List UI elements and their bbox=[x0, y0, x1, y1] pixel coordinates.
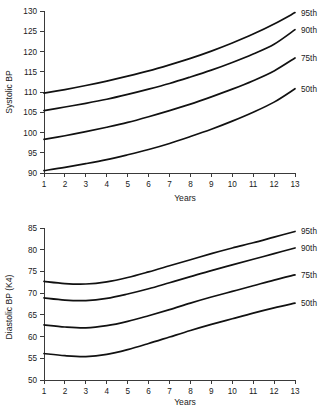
y-tick-label: 60 bbox=[28, 333, 38, 342]
x-tick-label: 11 bbox=[249, 180, 258, 189]
x-tick-label: 10 bbox=[228, 180, 238, 189]
series-curve-75th bbox=[44, 58, 295, 139]
systolic-bp-chart: 9095100105110115120125130 12345678910111… bbox=[0, 0, 331, 207]
diastolic-series-labels: 95th90th75th50th bbox=[301, 227, 317, 308]
systolic-x-tick-labels: 12345678910111213 bbox=[42, 180, 300, 189]
y-tick-label: 65 bbox=[28, 311, 38, 320]
series-label-50th: 50th bbox=[301, 85, 317, 94]
x-tick-label: 13 bbox=[290, 180, 300, 189]
x-tick-label: 8 bbox=[188, 387, 193, 396]
y-tick-label: 50 bbox=[28, 376, 38, 385]
y-tick-label: 95 bbox=[28, 149, 38, 158]
x-tick-label: 11 bbox=[249, 387, 258, 396]
x-tick-label: 4 bbox=[104, 387, 109, 396]
x-tick-label: 13 bbox=[290, 387, 300, 396]
x-tick-label: 12 bbox=[270, 387, 280, 396]
x-tick-label: 7 bbox=[167, 387, 172, 396]
y-tick-label: 70 bbox=[28, 289, 38, 298]
y-tick-label: 90 bbox=[28, 169, 38, 178]
series-label-90th: 90th bbox=[301, 26, 317, 35]
diastolic-bp-chart: 5055606570758085 12345678910111213 95th9… bbox=[0, 207, 331, 414]
diastolic-x-tick-marks bbox=[44, 380, 295, 384]
systolic-y-tick-labels: 9095100105110115120125130 bbox=[23, 7, 37, 178]
x-tick-label: 3 bbox=[84, 387, 89, 396]
series-curve-50th bbox=[44, 303, 295, 356]
systolic-x-tick-marks bbox=[44, 173, 295, 177]
x-tick-label: 8 bbox=[188, 180, 193, 189]
bp-percentile-figure: 9095100105110115120125130 12345678910111… bbox=[0, 0, 331, 414]
x-tick-label: 7 bbox=[167, 180, 172, 189]
systolic-series-labels: 95th90th75th50th bbox=[301, 9, 317, 94]
y-tick-label: 125 bbox=[23, 27, 37, 36]
systolic-chart-svg: 9095100105110115120125130 12345678910111… bbox=[0, 0, 331, 207]
systolic-y-tick-marks bbox=[40, 11, 44, 173]
y-tick-label: 85 bbox=[28, 224, 38, 233]
series-label-50th: 50th bbox=[301, 299, 317, 308]
series-label-90th: 90th bbox=[301, 244, 317, 253]
series-label-95th: 95th bbox=[301, 9, 317, 18]
diastolic-chart-svg: 5055606570758085 12345678910111213 95th9… bbox=[0, 207, 331, 414]
y-tick-label: 75 bbox=[28, 267, 38, 276]
y-tick-label: 130 bbox=[23, 7, 37, 16]
diastolic-curves bbox=[44, 231, 295, 356]
series-curve-50th bbox=[44, 89, 295, 171]
series-curve-90th bbox=[44, 248, 295, 301]
diastolic-y-tick-marks bbox=[40, 228, 44, 380]
x-tick-label: 4 bbox=[104, 180, 109, 189]
y-tick-label: 115 bbox=[24, 68, 37, 77]
x-tick-label: 5 bbox=[125, 387, 130, 396]
y-tick-label: 55 bbox=[28, 354, 38, 363]
y-tick-label: 100 bbox=[23, 129, 37, 138]
diastolic-y-tick-labels: 5055606570758085 bbox=[28, 224, 38, 385]
x-tick-label: 9 bbox=[209, 387, 214, 396]
systolic-y-axis-title: Systolic BP bbox=[4, 70, 14, 114]
x-tick-label: 1 bbox=[42, 180, 47, 189]
x-tick-label: 5 bbox=[125, 180, 130, 189]
diastolic-y-axis-title: Diastolic BP (K4) bbox=[4, 274, 14, 339]
y-tick-label: 120 bbox=[23, 48, 37, 57]
systolic-axes bbox=[40, 11, 295, 177]
y-tick-label: 105 bbox=[23, 108, 37, 117]
systolic-axis-lines bbox=[44, 11, 295, 173]
x-tick-label: 9 bbox=[209, 180, 214, 189]
systolic-curves bbox=[44, 13, 295, 171]
x-tick-label: 6 bbox=[146, 387, 151, 396]
diastolic-x-tick-labels: 12345678910111213 bbox=[42, 387, 300, 396]
diastolic-axes bbox=[40, 228, 295, 384]
x-tick-label: 3 bbox=[84, 180, 89, 189]
x-tick-label: 10 bbox=[228, 387, 238, 396]
series-curve-90th bbox=[44, 30, 295, 111]
x-tick-label: 6 bbox=[146, 180, 151, 189]
systolic-x-axis-title: Years bbox=[174, 193, 196, 203]
x-tick-label: 1 bbox=[42, 387, 47, 396]
diastolic-x-axis-title: Years bbox=[174, 397, 196, 407]
y-tick-label: 80 bbox=[28, 246, 38, 255]
series-label-95th: 95th bbox=[301, 227, 317, 236]
series-label-75th: 75th bbox=[301, 54, 317, 63]
series-label-75th: 75th bbox=[301, 271, 317, 280]
x-tick-label: 2 bbox=[63, 180, 68, 189]
y-tick-label: 110 bbox=[24, 88, 37, 97]
x-tick-label: 12 bbox=[270, 180, 280, 189]
x-tick-label: 2 bbox=[63, 387, 68, 396]
